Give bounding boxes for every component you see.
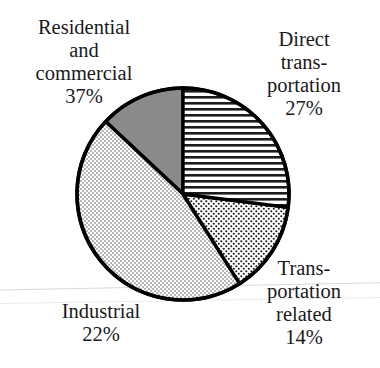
pie-label-residential-and-commercial: Residential and commercial 37% (10, 16, 158, 109)
pie-label-line: and (10, 39, 158, 62)
pie-label-line: portation (248, 280, 360, 303)
pie-label-transportation-related: Trans- portation related 14% (248, 257, 360, 350)
pie-label-line: portation (248, 74, 360, 97)
pie-label-industrial: Industrial 22% (30, 300, 172, 346)
pie-label-percent: 27% (248, 97, 360, 120)
pie-label-percent: 22% (30, 323, 172, 346)
pie-label-line: Trans- (248, 257, 360, 280)
pie-label-line: Industrial (30, 300, 172, 323)
pie-label-direct-transportation: Direct trans- portation 27% (248, 28, 360, 121)
pie-label-percent: 14% (248, 326, 360, 349)
pie-label-line: Residential (10, 16, 158, 39)
pie-label-line: Direct (248, 28, 360, 51)
pie-label-line: commercial (10, 62, 158, 85)
pie-label-line: related (248, 303, 360, 326)
pie-label-percent: 37% (10, 85, 158, 108)
pie-label-line: trans- (248, 51, 360, 74)
